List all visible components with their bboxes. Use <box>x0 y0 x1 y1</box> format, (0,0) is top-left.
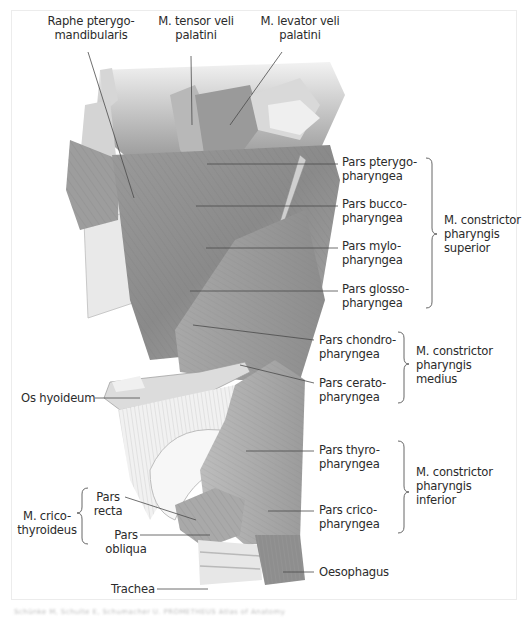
brace-superior <box>426 158 437 308</box>
label-pars-mylopharyngea: Pars mylo- pharyngea <box>342 239 403 267</box>
label-pars-pterygopharyngea: Pars pterygo- pharyngea <box>342 155 417 183</box>
label-m-cricothyroideus: M. crico- thyroideus <box>16 509 78 537</box>
label-pars-buccopharyngea: Pars bucco- pharyngea <box>342 197 407 225</box>
pharynx-illustration <box>0 0 531 624</box>
label-constrictor-superior: M. constrictor pharyngis superior <box>444 213 521 255</box>
trachea <box>198 540 262 585</box>
label-tensor-veli-palatini: M. tensor veli palatini <box>148 14 244 42</box>
brace-inferior <box>398 441 409 533</box>
label-pars-recta: Pars recta <box>90 490 126 518</box>
figure-caption: Schünke M, Schulte E, Schumacher U. PROM… <box>14 607 524 617</box>
label-constrictor-medius: M. constrictor pharyngis medius <box>416 344 493 386</box>
label-pars-obliqua: Pars obliqua <box>104 528 148 556</box>
label-constrictor-inferior: M. constrictor pharyngis inferior <box>416 465 493 507</box>
label-oesophagus: Oesophagus <box>319 565 389 579</box>
label-os-hyoideum: Os hyoideum <box>21 391 95 405</box>
label-pars-cricopharyngea: Pars crico- pharyngea <box>319 503 380 531</box>
brace-medius <box>398 332 409 403</box>
label-pars-thyropharyngea: Pars thyro- pharyngea <box>319 443 380 471</box>
label-pars-chondropharyngea: Pars chondro- pharyngea <box>319 333 396 361</box>
label-raphe-pterygomandibularis: Raphe pterygo- mandibularis <box>36 14 146 42</box>
label-pars-glossopharyngea: Pars glosso- pharyngea <box>342 282 409 310</box>
brace-cricothyroid <box>77 488 88 544</box>
label-pars-ceratopharyngea: Pars cerato- pharyngea <box>319 376 386 404</box>
label-trachea: Trachea <box>111 582 155 596</box>
label-levator-veli-palatini: M. levator veli palatini <box>250 14 350 42</box>
